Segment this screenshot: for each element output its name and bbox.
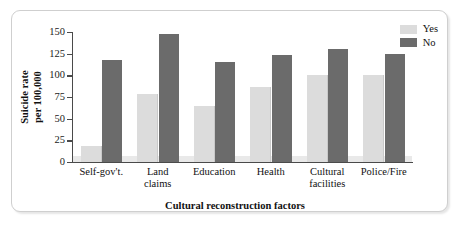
x-axis-title: Cultural reconstruction factors [0,200,470,211]
bar-yes[interactable] [137,94,158,162]
y-tick-label: 100 [49,70,65,81]
plot-area: 0255075100125150 [73,32,412,162]
x-axis-line [72,162,413,163]
y-axis-title: Suicide rate per 100,000 [14,32,48,162]
y-tick-label: 125 [49,48,65,59]
legend-item-no[interactable]: No [400,38,438,49]
legend-label: Yes [423,24,438,35]
y-tick-label: 75 [55,92,66,103]
legend-label: No [423,38,436,49]
x-category-label: Self-gov't. [73,166,130,178]
bar-no[interactable] [102,60,122,162]
bar-group [130,32,187,162]
y-axis-title-line2: per 100,000 [32,71,43,123]
legend-swatch-no [400,38,417,47]
y-axis-title-line1: Suicide rate [19,70,30,123]
y-tick-label: 150 [49,27,65,38]
bar-yes[interactable] [81,146,102,162]
bar-group [299,32,356,162]
bar-no[interactable] [159,34,179,162]
bar-group [186,32,243,162]
bar-no[interactable] [328,49,348,162]
legend-item-yes[interactable]: Yes [400,24,438,35]
bar-yes[interactable] [307,75,328,162]
bar-yes[interactable] [250,87,271,162]
y-tick-label: 50 [55,113,66,124]
x-category-label: Health [243,166,300,178]
bar-yes[interactable] [363,75,384,162]
figure-container: Suicide rate per 100,000 025507510012515… [0,0,470,234]
bar-yes[interactable] [194,106,215,162]
legend-swatch-yes [400,25,417,34]
y-tick-label: 0 [60,157,65,168]
x-category-label: Land claims [130,166,187,191]
y-tick-label: 25 [55,135,66,146]
bar-group [73,32,130,162]
x-category-label: Cultural facilities [299,166,356,191]
bar-no[interactable] [215,62,235,162]
bar-group [356,32,413,162]
y-tick-mark [67,162,73,163]
x-category-label: Police/Fire [356,166,413,178]
bar-no[interactable] [385,54,405,162]
x-category-label: Education [186,166,243,178]
bar-group [243,32,300,162]
bar-no[interactable] [272,55,292,162]
chart-legend: YesNo [400,24,438,51]
